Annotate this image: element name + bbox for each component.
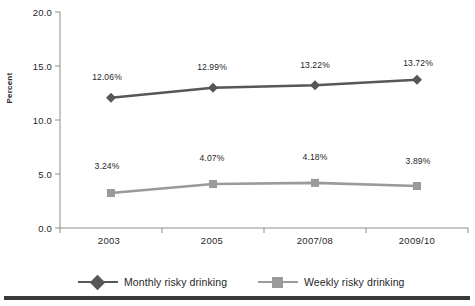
diamond-marker-icon (90, 275, 106, 291)
legend-item-monthly[interactable]: Monthly risky drinking (78, 272, 227, 292)
chart-figure: Percent 20.0 15.0 10.0 5.0 0.0 2003 2005… (0, 0, 475, 306)
data-point-1-3 (413, 182, 421, 190)
data-point-1-0 (107, 189, 115, 197)
y-axis-ticks (55, 12, 60, 228)
data-point-0-3 (412, 75, 422, 85)
legend-swatch-weekly (258, 275, 298, 289)
x-axis-ticks (60, 228, 468, 233)
data-point-1-1 (209, 180, 217, 188)
series-layer (106, 75, 422, 197)
plot-area (0, 0, 475, 306)
data-point-0-1 (208, 83, 218, 93)
legend-label-monthly: Monthly risky drinking (124, 276, 227, 288)
legend-item-weekly[interactable]: Weekly risky drinking (258, 272, 405, 292)
square-marker-icon (272, 277, 283, 288)
legend-label-weekly: Weekly risky drinking (304, 276, 405, 288)
chart-legend: Monthly risky drinking Weekly risky drin… (0, 272, 475, 296)
data-point-0-2 (310, 80, 320, 90)
data-point-1-2 (311, 179, 319, 187)
footer-rule (4, 296, 470, 300)
legend-swatch-monthly (78, 275, 118, 289)
data-point-0-0 (106, 93, 116, 103)
